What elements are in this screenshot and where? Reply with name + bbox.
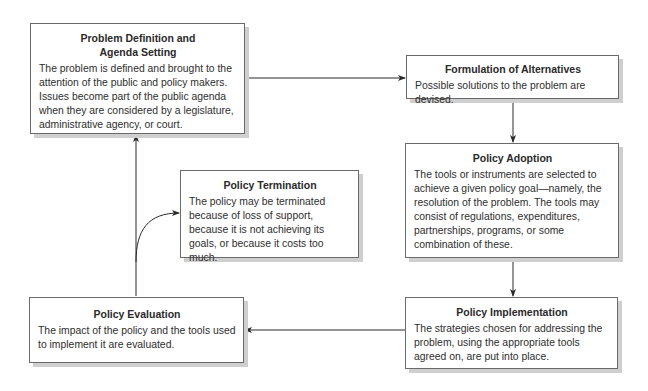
node-problem-definition: Problem Definition and Agenda Setting Th… [30,23,245,134]
node-policy-evaluation: Policy Evaluation The impact of the poli… [29,297,244,363]
node-title-line-2: Agenda Setting [39,45,237,59]
node-description: The impact of the policy and the tools u… [38,324,236,352]
node-policy-termination: Policy Termination The policy may be ter… [180,170,359,258]
node-title: Formulation of Alternatives [415,62,611,76]
node-title: Problem Definition and Agenda Setting [39,31,237,59]
arrow-evaluation-to-termination [136,213,179,262]
node-title: Policy Evaluation [38,307,236,321]
node-policy-adoption: Policy Adoption The tools or instruments… [405,143,619,258]
node-description: The tools or instruments are selected to… [414,168,611,252]
node-title: Policy Termination [189,178,351,192]
node-title: Policy Implementation [414,305,610,319]
node-description: The strategies chosen for addressing the… [414,322,610,364]
node-title-line-1: Problem Definition and [39,31,237,45]
node-title: Policy Adoption [414,151,611,165]
node-description: Possible solutions to the problem are de… [415,79,611,107]
node-description: The policy may be terminated because of … [189,195,351,265]
node-policy-implementation: Policy Implementation The strategies cho… [405,297,618,369]
node-formulation-of-alternatives: Formulation of Alternatives Possible sol… [406,55,619,99]
node-description: The problem is defined and brought to th… [39,62,237,132]
